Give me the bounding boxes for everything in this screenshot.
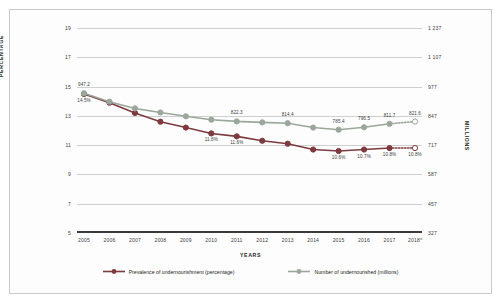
data-point-label: 10.7% bbox=[357, 154, 371, 159]
x-axis-tick-label: 2016 bbox=[358, 237, 370, 243]
x-axis-tick-label: 2018* bbox=[408, 237, 422, 243]
y-axis-left-tick-label: 19 bbox=[65, 25, 71, 31]
series-marker bbox=[285, 141, 290, 146]
y-axis-right-tick-label: 327 bbox=[428, 230, 437, 236]
y-axis-left-tick-label: 17 bbox=[65, 54, 71, 60]
series-marker bbox=[158, 119, 163, 124]
y-axis-left-tick-label: 9 bbox=[68, 171, 71, 177]
x-axis-tick-label: 2015 bbox=[333, 237, 345, 243]
series-marker bbox=[387, 145, 392, 150]
data-point-label: 821.6 bbox=[409, 111, 421, 116]
series-marker bbox=[209, 117, 214, 122]
data-point-label: 785.4 bbox=[333, 119, 345, 124]
data-point-label: 947.2 bbox=[78, 82, 90, 87]
y-axis-right-tick-label: 1 237 bbox=[428, 25, 442, 31]
chart-page: PERCENTAGE MILLIONS YEARS 1917151311975 … bbox=[0, 0, 501, 303]
series-marker bbox=[336, 127, 341, 132]
series-marker bbox=[209, 131, 214, 136]
data-point-label: 11.8% bbox=[205, 137, 218, 142]
y-axis-left-tick-label: 11 bbox=[65, 142, 71, 148]
data-point-label: 10.8% bbox=[408, 152, 422, 157]
legend-label: Number of undernourished (millions) bbox=[314, 269, 398, 275]
series-marker bbox=[234, 134, 239, 139]
series-marker bbox=[361, 125, 366, 130]
data-point-label: 814.4 bbox=[282, 112, 294, 117]
series-marker bbox=[361, 147, 366, 152]
legend-item[interactable]: Prevalence of undernourishment (percenta… bbox=[103, 268, 235, 275]
y-axis-left-title: PERCENTAGE bbox=[0, 16, 4, 96]
series-marker bbox=[158, 110, 163, 115]
series-marker bbox=[260, 138, 265, 143]
x-axis-tick-label: 2017 bbox=[384, 237, 396, 243]
x-axis-tick-label: 2007 bbox=[129, 237, 141, 243]
y-axis-left-tick-label: 15 bbox=[65, 84, 71, 90]
y-axis-left-tick-label: 13 bbox=[65, 113, 71, 119]
plot-area: 1917151311975 1 2371 1079778477175874573… bbox=[77, 28, 422, 233]
legend-swatch-icon bbox=[288, 268, 310, 275]
x-axis-tick-label: 2008 bbox=[154, 237, 166, 243]
y-axis-right-tick-label: 717 bbox=[428, 142, 437, 148]
y-axis-right-tick-label: 847 bbox=[428, 113, 437, 119]
series-marker bbox=[336, 148, 341, 153]
x-axis-title: YEARS bbox=[0, 252, 501, 258]
x-axis-tick-label: 2012 bbox=[256, 237, 268, 243]
x-axis-tick-label: 2013 bbox=[282, 237, 294, 243]
series-marker bbox=[81, 91, 86, 96]
series-marker bbox=[234, 119, 239, 124]
series-marker bbox=[132, 106, 137, 111]
y-axis-right-title: MILLIONS bbox=[464, 96, 470, 176]
y-axis-right-tick-label: 457 bbox=[428, 201, 437, 207]
series-marker bbox=[311, 125, 316, 130]
series-marker bbox=[285, 121, 290, 126]
y-axis-right-tick-label: 1 107 bbox=[428, 54, 442, 60]
series-marker bbox=[387, 121, 392, 126]
data-point-label: 811.7 bbox=[384, 113, 396, 118]
x-axis-tick-label: 2011 bbox=[231, 237, 243, 243]
legend-label: Prevalence of undernourishment (percenta… bbox=[129, 269, 235, 275]
series-marker bbox=[260, 120, 265, 125]
series-marker bbox=[107, 99, 112, 104]
data-point-label: 11.6% bbox=[230, 140, 243, 145]
series-marker-projected bbox=[412, 145, 417, 150]
data-point-label: 10.8% bbox=[383, 152, 397, 157]
x-axis-tick-label: 2009 bbox=[180, 237, 192, 243]
series-line-projected bbox=[390, 122, 415, 124]
y-axis-right-tick-label: 977 bbox=[428, 84, 437, 90]
legend-swatch-icon bbox=[103, 268, 125, 275]
x-axis-tick-label: 2014 bbox=[307, 237, 319, 243]
series-marker-projected bbox=[412, 119, 417, 124]
series-marker bbox=[183, 125, 188, 130]
legend-item[interactable]: Number of undernourished (millions) bbox=[288, 268, 398, 275]
x-axis-tick-label: 2005 bbox=[78, 237, 90, 243]
x-axis-tick-label: 2006 bbox=[103, 237, 115, 243]
y-axis-left-tick-label: 7 bbox=[68, 201, 71, 207]
series-marker bbox=[311, 147, 316, 152]
data-point-label: 822.3 bbox=[231, 110, 243, 115]
data-point-label: 10.6% bbox=[332, 155, 346, 160]
y-axis-left-tick-label: 5 bbox=[68, 230, 71, 236]
data-point-label: 796.5 bbox=[358, 116, 370, 121]
series-lines bbox=[77, 28, 422, 233]
y-axis-right-tick-label: 587 bbox=[428, 171, 437, 177]
x-axis-tick-label: 2010 bbox=[205, 237, 217, 243]
series-marker bbox=[183, 114, 188, 119]
chart-legend: Prevalence of undernourishment (percenta… bbox=[0, 268, 501, 275]
data-point-label: 14.5% bbox=[77, 98, 91, 103]
